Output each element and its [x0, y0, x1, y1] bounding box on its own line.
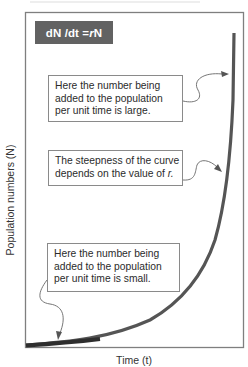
arrowhead-small-icon [56, 331, 62, 340]
equation-label: dN /dt = rN [35, 21, 113, 44]
equation-prefix: dN /dt = [46, 27, 89, 39]
growth-curve-base [26, 339, 100, 346]
note-line: per unit time is large. [55, 105, 176, 118]
arrow-steepness [183, 161, 217, 180]
note-line: depends on the value of r. [55, 168, 176, 181]
arrow-large [183, 74, 222, 102]
exponential-growth-diagram: dN /dt = rN Here the number being added … [0, 0, 248, 367]
note-line-text: depends on the value of [55, 168, 168, 179]
note-small-growth: Here the number being added to the popul… [47, 243, 180, 292]
note-steepness: The steepness of the curve depends on th… [48, 150, 183, 186]
x-axis-label: Time (t) [116, 354, 152, 366]
note-line: The steepness of the curve [55, 155, 176, 168]
y-axis-label: Population numbers (N) [4, 145, 16, 256]
rate-symbol: r. [168, 168, 174, 179]
note-line: Here the number being [55, 80, 176, 93]
note-line: Here the number being [54, 248, 173, 261]
note-line: added to the population [55, 93, 176, 106]
note-line: added to the population [54, 261, 173, 274]
note-large-growth: Here the number being added to the popul… [48, 75, 183, 122]
note-line: per unit time is small. [54, 273, 173, 286]
equation-suffix: N [94, 27, 102, 39]
arrowhead-large-icon [221, 71, 229, 77]
